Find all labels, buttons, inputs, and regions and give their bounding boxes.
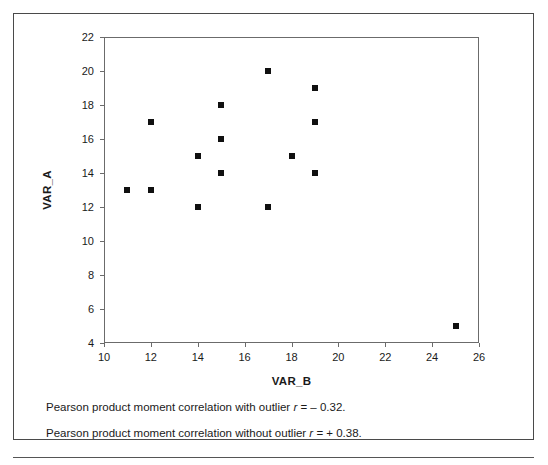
y-axis-tick-label: 8 — [68, 269, 94, 281]
x-axis-tick-label: 14 — [183, 351, 213, 363]
y-axis-tick-label: 20 — [68, 65, 94, 77]
x-axis-tick-label: 22 — [370, 351, 400, 363]
data-point — [265, 204, 271, 210]
data-point — [265, 68, 271, 74]
y-axis-tick — [100, 207, 104, 208]
caption-line-2-prefix: Pearson product moment correlation witho… — [46, 427, 309, 439]
x-axis-tick-label: 18 — [277, 351, 307, 363]
x-axis-tick — [479, 343, 480, 347]
y-axis-tick — [100, 105, 104, 106]
caption-block: Pearson product moment correlation with … — [46, 394, 486, 446]
y-axis-tick — [100, 173, 104, 174]
caption-line-1-prefix: Pearson product moment correlation with … — [46, 401, 293, 413]
x-axis-tick — [198, 343, 199, 347]
x-axis-tick-label: 24 — [417, 351, 447, 363]
data-point — [195, 153, 201, 159]
x-axis-tick — [385, 343, 386, 347]
data-point — [218, 170, 224, 176]
data-point — [312, 119, 318, 125]
caption-line-2-value: = + 0.38. — [313, 427, 362, 439]
scatter-chart: 10121416182022242646810121416182022 VAR_… — [14, 14, 535, 364]
caption-line-with-outlier: Pearson product moment correlation with … — [46, 394, 486, 420]
y-axis-tick — [100, 37, 104, 38]
data-point — [218, 102, 224, 108]
data-point — [148, 119, 154, 125]
y-axis-tick-label: 22 — [68, 31, 94, 43]
data-point — [195, 204, 201, 210]
data-point — [312, 170, 318, 176]
y-axis-tick-label: 18 — [68, 99, 94, 111]
data-point — [289, 153, 295, 159]
horizontal-rule — [13, 457, 534, 458]
y-axis-tick — [100, 343, 104, 344]
y-axis-label: VAR_A — [41, 170, 53, 210]
y-axis-tick-label: 6 — [68, 303, 94, 315]
x-axis-tick-label: 12 — [136, 351, 166, 363]
x-axis-tick — [151, 343, 152, 347]
data-point — [124, 187, 130, 193]
x-axis-tick-label: 10 — [89, 351, 119, 363]
x-axis-label: VAR_B — [104, 375, 479, 387]
x-axis-tick-label: 20 — [323, 351, 353, 363]
data-point — [312, 85, 318, 91]
x-axis-tick — [245, 343, 246, 347]
y-axis-tick — [100, 139, 104, 140]
y-axis-tick — [100, 309, 104, 310]
data-point — [453, 323, 459, 329]
x-axis-tick — [432, 343, 433, 347]
x-axis-tick — [292, 343, 293, 347]
figure-container: 10121416182022242646810121416182022 VAR_… — [13, 13, 534, 440]
plot-frame — [104, 37, 479, 343]
x-axis-tick — [104, 343, 105, 347]
y-axis-tick-label: 4 — [68, 337, 94, 349]
caption-line-1-value: = – 0.32. — [297, 401, 345, 413]
x-axis-tick-label: 26 — [464, 351, 494, 363]
y-axis-tick-label: 12 — [68, 201, 94, 213]
y-axis-tick-label: 10 — [68, 235, 94, 247]
y-axis-tick — [100, 275, 104, 276]
y-axis-tick-label: 16 — [68, 133, 94, 145]
x-axis-tick — [338, 343, 339, 347]
caption-line-without-outlier: Pearson product moment correlation witho… — [46, 420, 486, 446]
data-point — [218, 136, 224, 142]
y-axis-tick — [100, 71, 104, 72]
y-axis-tick — [100, 241, 104, 242]
y-axis-tick-label: 14 — [68, 167, 94, 179]
data-point — [148, 187, 154, 193]
x-axis-tick-label: 16 — [230, 351, 260, 363]
